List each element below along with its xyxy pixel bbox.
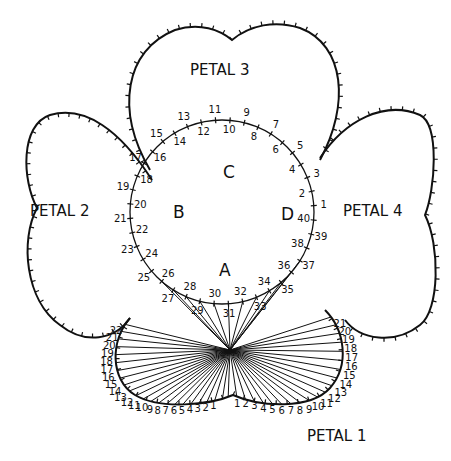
petal-1-right-label: 6 [278,405,284,416]
edge-tick [330,51,333,53]
edge-tick [32,131,36,133]
circle-tick [129,232,135,233]
circle-tick [311,220,317,221]
string-line [136,350,230,396]
edge-tick [424,321,427,324]
circle-point-label: 24 [145,248,158,259]
edge-tick [223,30,225,34]
edge-tick [30,227,34,228]
petal-1-left-label: 5 [179,405,185,416]
circle-tick [127,204,133,205]
circle-point-label: 2 [299,188,305,199]
edge-tick [261,22,262,26]
petal-4-outline [320,110,436,338]
edge-tick [372,337,373,341]
section-a-label: A [219,260,231,280]
edge-tick [29,270,33,271]
edge-tick [53,317,56,320]
circle-point-label: 37 [302,260,315,271]
string-line [230,333,339,350]
edge-tick [134,62,138,64]
circle-tick [309,191,315,192]
petal-2-label: PETAL 2 [30,202,89,220]
petal-1-left-label: 22 [110,325,123,336]
circle-point-label: 33 [254,301,267,312]
edge-tick [35,291,39,293]
edge-tick [315,33,317,36]
circle-point-label: 28 [184,281,197,292]
petal-1-left-label: 4 [187,404,193,415]
circle-point-label: 23 [121,244,134,255]
string-line [173,290,230,350]
edge-tick [116,348,120,349]
circle-tick [214,301,215,307]
circle-point-label: 5 [297,140,303,151]
edge-tick [29,185,33,186]
edge-tick [317,393,319,397]
edge-tick [157,35,159,38]
string-line [125,324,230,350]
circle-point-label: 39 [315,231,328,242]
edge-tick [58,113,59,117]
petal-1-right-label: 21 [334,318,347,329]
circle-point-label: 10 [223,124,236,135]
circle-point-label: 16 [154,152,167,163]
pattern-drawing: 1234567891011121314151617181920212223242… [0,0,451,461]
petal-1-left-label: 1 [210,400,216,411]
circle-point-label: 8 [251,131,257,142]
circle-point-label: 15 [150,128,163,139]
circle-tick [201,119,202,125]
edge-tick [148,43,151,46]
edge-tick [39,122,42,125]
edge-tick [127,386,130,389]
circle-point-label: 22 [136,224,149,235]
petal-1-left-label: 7 [163,405,169,416]
circle-point-label: 7 [273,119,279,130]
edge-tick [71,329,73,333]
petal-1-label: PETAL 1 [307,427,366,445]
edge-tick [122,145,125,148]
circle-point-label: 9 [243,107,249,118]
circle-point-label: 32 [234,286,247,297]
edge-tick [336,118,340,119]
edge-tick [127,84,131,85]
edge-tick [337,73,341,74]
petal-3-label: PETAL 3 [190,61,249,79]
edge-tick [167,29,169,33]
circle-point-label: 26 [162,268,175,279]
edge-tick [40,300,43,302]
petal-1-left-label: 8 [155,405,161,416]
petal-3-outline [129,24,339,170]
edge-tick [336,370,340,371]
edge-tick [62,323,64,326]
circle-point-label: 31 [223,308,236,319]
edge-tick [143,171,146,173]
circle-point-label: 11 [209,104,222,115]
petal-1-left-label: 3 [195,403,201,414]
edge-tick [339,130,342,133]
circle-point-label: 4 [289,164,295,175]
edge-tick [338,107,342,108]
edge-tick [89,118,91,122]
edge-tick [325,387,328,390]
circle-point-label: 38 [291,238,304,249]
edge-tick [127,118,131,119]
edge-tick [107,130,109,133]
edge-tick [323,41,326,44]
edge-tick [358,116,360,120]
flower-pattern-diagram: 1234567891011121314151617181920212223242… [0,0,451,461]
circle-point-label: 18 [140,174,153,185]
circle-point-label: 29 [191,305,204,316]
circle-tick [230,117,231,123]
petal-1-right-label: 2 [243,398,249,409]
circle-tick [244,120,245,126]
circle-point-label: 36 [278,260,291,271]
circle-tick [130,189,136,190]
circle-point-label: 40 [297,213,310,224]
section-c-label: C [223,162,235,182]
circle-point-label: 21 [114,213,127,224]
circle-point-label: 17 [129,152,142,163]
circle-point-label: 25 [137,272,150,283]
edge-tick [332,379,335,381]
petal-1-left-label: 6 [171,405,177,416]
